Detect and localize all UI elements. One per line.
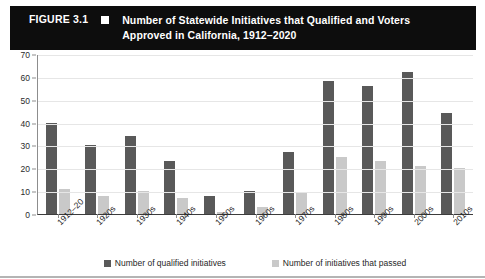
x-axis-label-cell: 2010s xyxy=(433,218,473,258)
bar-qualified[interactable] xyxy=(441,113,452,214)
bar-qualified[interactable] xyxy=(125,136,136,214)
legend-label: Number of qualified initiatives xyxy=(115,258,226,268)
legend-item[interactable]: Number of initiatives that passed xyxy=(272,258,406,268)
bar-group xyxy=(38,55,78,214)
bar-group xyxy=(78,55,118,214)
figure-container: FIGURE 3.1 Number of Statewide Initiativ… xyxy=(0,0,485,279)
gridline xyxy=(38,55,473,56)
chart-legend: Number of qualified initiativesNumber of… xyxy=(37,258,473,268)
gridline xyxy=(38,192,473,193)
gridline xyxy=(38,101,473,102)
y-axis-tick-mark xyxy=(32,169,36,170)
figure-header: FIGURE 3.1 Number of Statewide Initiativ… xyxy=(10,6,476,50)
bar-qualified[interactable] xyxy=(204,196,215,214)
x-axis-label-cell: 1960s xyxy=(235,218,275,258)
bar-qualified[interactable] xyxy=(85,145,96,214)
y-axis-tick-mark xyxy=(32,215,36,216)
bar-qualified[interactable] xyxy=(46,123,57,214)
gridline xyxy=(38,146,473,147)
bar-qualified[interactable] xyxy=(283,152,294,214)
chart-area: 010203040506070 1912–201920s1930s1940s19… xyxy=(10,55,476,271)
x-axis-label-cell: 1950s xyxy=(196,218,236,258)
plot-canvas xyxy=(37,55,473,215)
x-axis-labels: 1912–201920s1930s1940s1950s1960s1970s198… xyxy=(37,218,473,258)
bar-group xyxy=(157,55,197,214)
bar-group xyxy=(275,55,315,214)
bar-group xyxy=(354,55,394,214)
bar-group xyxy=(394,55,434,214)
bar-group xyxy=(117,55,157,214)
y-axis-tick-mark xyxy=(32,123,36,124)
x-axis-label-cell: 1930s xyxy=(116,218,156,258)
y-axis-tick-label: 40 xyxy=(21,119,30,129)
y-axis-tick-label: 50 xyxy=(21,96,30,106)
figure-number: FIGURE 3.1 xyxy=(29,13,88,26)
y-axis-tick-mark xyxy=(32,55,36,56)
x-axis-label-cell: 1920s xyxy=(77,218,117,258)
bar-group xyxy=(196,55,236,214)
legend-item[interactable]: Number of qualified initiatives xyxy=(104,258,226,268)
y-axis-tick-label: 70 xyxy=(21,50,30,60)
filled-square-icon xyxy=(101,16,109,24)
bar-group xyxy=(433,55,473,214)
y-axis-tick-label: 60 xyxy=(21,73,30,83)
bar-group xyxy=(315,55,355,214)
x-axis-label-cell: 2000s xyxy=(394,218,434,258)
legend-label: Number of initiatives that passed xyxy=(283,258,406,268)
legend-swatch-icon xyxy=(272,260,279,267)
bottom-divider xyxy=(0,276,485,278)
y-axis-tick-label: 20 xyxy=(21,164,30,174)
figure-title: Number of Statewide Initiatives that Qua… xyxy=(122,13,452,42)
x-axis-label-cell: 1940s xyxy=(156,218,196,258)
gridline xyxy=(38,124,473,125)
y-axis: 010203040506070 xyxy=(10,55,36,215)
y-axis-tick-mark xyxy=(32,146,36,147)
bar-groups xyxy=(38,55,473,214)
y-axis-tick-mark xyxy=(32,192,36,193)
bar-qualified[interactable] xyxy=(244,191,255,214)
legend-swatch-icon xyxy=(104,260,111,267)
x-axis-label-cell: 1990s xyxy=(354,218,394,258)
y-axis-tick-label: 10 xyxy=(21,187,30,197)
bar-qualified[interactable] xyxy=(362,86,373,214)
y-axis-tick-mark xyxy=(32,77,36,78)
x-axis-label-cell: 1980s xyxy=(314,218,354,258)
y-axis-tick-mark xyxy=(32,100,36,101)
bar-group xyxy=(236,55,276,214)
y-axis-tick-label: 0 xyxy=(25,210,30,220)
x-axis-label-cell: 1970s xyxy=(275,218,315,258)
gridline xyxy=(38,78,473,79)
y-axis-tick-label: 30 xyxy=(21,141,30,151)
gridline xyxy=(38,169,473,170)
x-axis-label-cell: 1912–20 xyxy=(37,218,77,258)
